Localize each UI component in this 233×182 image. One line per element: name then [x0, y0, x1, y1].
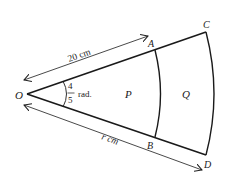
point-label-A: A — [147, 38, 155, 49]
radius-OC — [27, 32, 206, 94]
sector-diagram: O A C B D P Q 4 5 rad. 20 cm r cm — [0, 0, 233, 182]
point-label-D: D — [203, 159, 212, 170]
angle-arc — [63, 81, 67, 107]
angle-numerator: 4 — [68, 81, 73, 91]
region-label-P: P — [124, 88, 132, 100]
arc-AB — [155, 50, 161, 137]
arc-CD — [206, 32, 214, 155]
angle-unit: rad. — [78, 89, 92, 99]
point-label-O: O — [15, 89, 23, 101]
angle-denominator: 5 — [68, 95, 73, 105]
point-label-B: B — [147, 140, 153, 151]
region-label-Q: Q — [182, 88, 190, 100]
dimension-label-OA: 20 cm — [66, 46, 92, 63]
point-label-C: C — [203, 19, 210, 30]
dimension-label-OD: r cm — [100, 131, 120, 146]
